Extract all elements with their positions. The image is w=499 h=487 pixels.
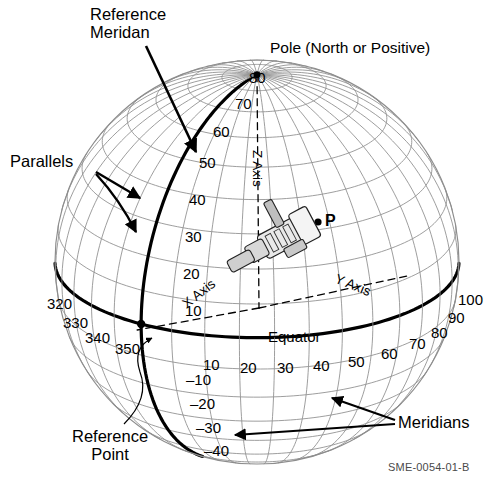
tick-lat-minus-30: –30 [196,420,221,436]
label-reference-point: Reference Point [72,428,148,464]
tick-lat-10: 10 [185,303,202,319]
label-meridians: Meridians [398,414,470,432]
tick-lon-90: 90 [448,310,465,326]
label-point-p: P [325,212,336,229]
tick-lon-50: 50 [348,354,365,370]
tick-lon-320: 320 [47,296,72,312]
figure-caption-id: SME-0054-01-B [388,462,469,474]
tick-lat-40: 40 [189,192,206,208]
label-pole: Pole (North or Positive) [270,40,430,57]
tick-lon-20: 20 [240,360,257,376]
tick-lat-20: 20 [183,266,200,282]
tick-lon-80: 80 [431,325,448,341]
tick-lat-minus-10: –10 [186,372,211,388]
tick-lon-340: 340 [85,330,110,346]
tick-lon-60: 60 [381,346,398,362]
tick-lat-60: 60 [213,124,230,140]
tick-lon-100: 100 [458,292,483,308]
label-z-axis: Z Axis [249,150,264,187]
figure-canvas: Reference Meridan Parallels Meridians Re… [0,0,499,487]
tick-lon-70: 70 [409,336,426,352]
tick-lat-50: 50 [199,155,216,171]
tick-lat-70: 70 [235,96,252,112]
tick-lon-10: 10 [203,357,220,373]
tick-lon-40: 40 [313,358,330,374]
tick-lat-80: 80 [249,70,266,86]
label-reference-meridian: Reference Meridan [90,6,166,42]
tick-lat-minus-40: –40 [204,443,229,459]
label-parallels: Parallels [10,153,73,171]
tick-lon-350: 350 [115,341,140,357]
label-equator: Equator [268,329,321,345]
tick-lat-30: 30 [185,229,202,245]
tick-lat-minus-20: –20 [190,396,215,412]
tick-lon-30: 30 [277,360,294,376]
